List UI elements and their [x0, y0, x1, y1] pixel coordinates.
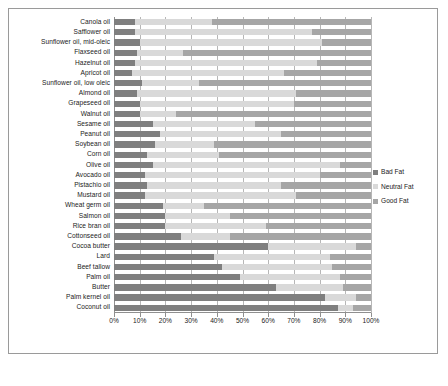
category-label: Palm oil — [11, 272, 114, 282]
bar-segment-neutral-fat — [163, 203, 204, 209]
category-label: Wheat germ oil — [11, 201, 114, 211]
bar-segment-bad-fat — [114, 233, 181, 239]
stacked-bar — [114, 264, 371, 270]
category-label: Almond oil — [11, 88, 114, 98]
category-label: Avocado oil — [11, 170, 114, 180]
bar-segment-neutral-fat — [135, 60, 317, 66]
bar-segment-bad-fat — [114, 223, 165, 229]
bar-segment-good-fat — [281, 182, 371, 188]
stacked-bar — [114, 39, 371, 45]
category-label: Peanut oil — [11, 129, 114, 139]
bar-segment-bad-fat — [114, 19, 135, 25]
bar-row — [114, 58, 371, 68]
category-label: Walnut oil — [11, 109, 114, 119]
x-tick-label: 50% — [236, 318, 249, 325]
bar-row — [114, 221, 371, 231]
category-label: Butter — [11, 282, 114, 292]
bar-row — [114, 139, 371, 149]
bar-row — [114, 252, 371, 262]
bar-segment-good-fat — [284, 70, 371, 76]
bar-segment-bad-fat — [114, 101, 140, 107]
stacked-bar — [114, 19, 371, 25]
bar-segment-bad-fat — [114, 243, 268, 249]
legend-item[interactable]: Good Fat — [373, 198, 431, 205]
stacked-bar — [114, 111, 371, 117]
bar-segment-good-fat — [322, 39, 371, 45]
bar-segment-good-fat — [296, 90, 371, 96]
bar-row — [114, 68, 371, 78]
bar-segment-good-fat — [266, 223, 371, 229]
category-label: Mustard oil — [11, 190, 114, 200]
bar-row — [114, 37, 371, 47]
bar-segment-bad-fat — [114, 254, 214, 260]
bar-row — [114, 150, 371, 160]
bar-segment-good-fat — [183, 50, 371, 56]
stacked-bar — [114, 152, 371, 158]
stacked-bar — [114, 80, 371, 86]
category-axis: Canola oilSafflower oilSunflower oil, mi… — [11, 17, 114, 313]
bar-row — [114, 272, 371, 282]
bar-row — [114, 27, 371, 37]
bar-segment-good-fat — [320, 172, 371, 178]
gridline — [371, 17, 372, 313]
bar-segment-good-fat — [312, 29, 371, 35]
bar-row — [114, 48, 371, 58]
chart-legend: Bad FatNeutral FatGood Fat — [373, 169, 431, 213]
bar-segment-good-fat — [219, 152, 371, 158]
bar-segment-neutral-fat — [338, 305, 353, 311]
category-label: Grapeseed oil — [11, 99, 114, 109]
bar-row — [114, 99, 371, 109]
bar-segment-neutral-fat — [137, 90, 296, 96]
bar-segment-bad-fat — [114, 111, 140, 117]
bar-row — [114, 201, 371, 211]
legend-item[interactable]: Bad Fat — [373, 169, 431, 176]
x-tick-label: 60% — [262, 318, 275, 325]
bar-segment-bad-fat — [114, 274, 240, 280]
bar-segment-bad-fat — [114, 264, 222, 270]
bar-segment-bad-fat — [114, 162, 153, 168]
bar-segment-good-fat — [356, 243, 371, 249]
bar-segment-good-fat — [214, 141, 371, 147]
bar-segment-good-fat — [212, 19, 371, 25]
bar-segment-neutral-fat — [140, 39, 322, 45]
x-tick-label: 20% — [159, 318, 172, 325]
bar-segment-good-fat — [332, 264, 371, 270]
bar-segment-bad-fat — [114, 192, 145, 198]
bar-segment-neutral-fat — [140, 101, 294, 107]
category-label: Olive oil — [11, 160, 114, 170]
stacked-bar — [114, 203, 371, 209]
stacked-bar — [114, 233, 371, 239]
bar-row — [114, 292, 371, 302]
x-tick-label: 100% — [363, 318, 380, 325]
bar-segment-good-fat — [353, 305, 371, 311]
legend-label: Bad Fat — [381, 169, 404, 176]
bar-row — [114, 129, 371, 139]
bar-row — [114, 170, 371, 180]
bar-segment-neutral-fat — [214, 254, 330, 260]
bar-segment-neutral-fat — [153, 121, 256, 127]
stacked-bar — [114, 182, 371, 188]
stacked-bar — [114, 90, 371, 96]
bar-segment-good-fat — [296, 192, 371, 198]
bar-segment-neutral-fat — [145, 192, 297, 198]
bar-segment-bad-fat — [114, 60, 135, 66]
legend-item[interactable]: Neutral Fat — [373, 184, 431, 191]
bar-segment-bad-fat — [114, 284, 276, 290]
bar-segment-good-fat — [343, 284, 371, 290]
bar-series-group — [114, 17, 371, 313]
stacked-bar — [114, 162, 371, 168]
stacked-bar — [114, 192, 371, 198]
bar-segment-good-fat — [340, 274, 371, 280]
bar-row — [114, 78, 371, 88]
bar-row — [114, 262, 371, 272]
bar-segment-bad-fat — [114, 121, 153, 127]
x-tick-label: 30% — [184, 318, 197, 325]
bar-segment-bad-fat — [114, 39, 140, 45]
stacked-bar — [114, 223, 371, 229]
category-label: Flaxseed oil — [11, 48, 114, 58]
bar-segment-neutral-fat — [147, 152, 219, 158]
x-tick-label: 90% — [339, 318, 352, 325]
bar-segment-good-fat — [230, 233, 371, 239]
bar-segment-neutral-fat — [140, 111, 176, 117]
category-label: Salmon oil — [11, 211, 114, 221]
